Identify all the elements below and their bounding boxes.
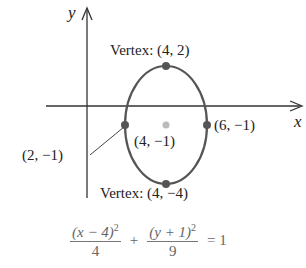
center-label: (4, −1) bbox=[134, 134, 175, 149]
ellipse-equation: (x − 4)2 4 + (y + 1)2 9 = 1 bbox=[70, 222, 227, 260]
term2-fraction: (y + 1)2 9 bbox=[147, 222, 198, 260]
term1-fraction: (x − 4)2 4 bbox=[70, 222, 121, 260]
ellipse-diagram: y x Vertex: (4, 2) Vertex: (4, −4) (2, −… bbox=[0, 0, 306, 268]
right-point-label: (6, −1) bbox=[214, 118, 255, 133]
term1-numerator: (x − 4) bbox=[72, 224, 114, 240]
plus-sign: + bbox=[130, 232, 138, 249]
top-vertex-point bbox=[162, 62, 170, 70]
leader-line bbox=[90, 127, 124, 155]
right-point bbox=[203, 121, 211, 129]
term2-exponent: 2 bbox=[191, 222, 196, 233]
term2-numerator: (y + 1) bbox=[149, 224, 191, 240]
left-point-label: (2, −1) bbox=[22, 148, 63, 163]
x-axis-label: x bbox=[294, 113, 302, 130]
term2-denominator: 9 bbox=[169, 242, 177, 260]
top-vertex-label: Vertex: (4, 2) bbox=[110, 43, 190, 58]
y-axis-label: y bbox=[68, 4, 76, 21]
equals-one: = 1 bbox=[207, 232, 227, 249]
term1-denominator: 4 bbox=[92, 242, 100, 260]
center-point bbox=[163, 122, 170, 129]
left-point bbox=[121, 121, 129, 129]
term1-exponent: 2 bbox=[114, 222, 119, 233]
bottom-vertex-label: Vertex: (4, −4) bbox=[100, 186, 188, 201]
